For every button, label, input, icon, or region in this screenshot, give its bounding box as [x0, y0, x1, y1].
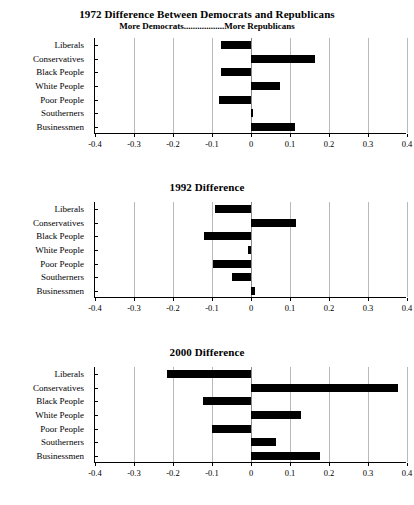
- x-tick--0.2: [173, 134, 174, 137]
- y-tick-1972-0: [95, 45, 98, 46]
- category-label-1972-businessmen: Businessmen: [36, 122, 84, 132]
- gridline--0.1: [212, 367, 213, 462]
- plot-area-2000: LiberalsConservativesBlack PeopleWhite P…: [0, 367, 414, 487]
- x-tick-0: [251, 298, 252, 301]
- gridline-0.4: [407, 367, 408, 462]
- x-axis-label-1972-4: 0: [249, 139, 253, 149]
- bar-1992-businessmen: [251, 287, 255, 295]
- y-tick-1972-1: [95, 59, 98, 60]
- bar-2000-conservatives: [251, 384, 398, 392]
- bar-2000-black-people: [203, 397, 251, 405]
- x-axis-label-1992-0: -0.4: [88, 303, 101, 313]
- x-tick--0.4: [95, 298, 96, 301]
- y-tick-1992-4: [95, 264, 98, 265]
- category-label-1972-white-people: White People: [35, 81, 84, 91]
- x-tick-0.1: [290, 463, 291, 466]
- gridline-0.4: [407, 38, 408, 133]
- x-axis-label-1972-2: -0.2: [166, 139, 179, 149]
- category-label-2000-businessmen: Businessmen: [36, 451, 84, 461]
- x-tick-0: [251, 134, 252, 137]
- category-label-1992-businessmen: Businessmen: [36, 286, 84, 296]
- gridline-0.3: [368, 367, 369, 462]
- gridline--0.3: [134, 202, 135, 297]
- y-tick-1972-4: [95, 100, 98, 101]
- category-label-1992-liberals: Liberals: [55, 204, 85, 214]
- chart-title-2000: 2000 Difference: [0, 340, 414, 359]
- x-axis-label-2000-3: -0.1: [205, 468, 218, 478]
- category-label-2000-southerners: Southerners: [41, 437, 84, 447]
- x-tick--0.1: [212, 463, 213, 466]
- bar-1972-black-people: [221, 68, 251, 76]
- category-label-1972-poor-people: Poor People: [40, 95, 84, 105]
- y-tick-1972-6: [95, 127, 98, 128]
- axes-1972: -0.4-0.3-0.2-0.100.10.20.30.4: [94, 38, 406, 134]
- gridline-0.2: [329, 367, 330, 462]
- x-axis-label-1972-6: 0.2: [324, 139, 335, 149]
- x-axis-label-1992-2: -0.2: [166, 303, 179, 313]
- y-tick-2000-1: [95, 388, 98, 389]
- x-axis-label-1972-7: 0.3: [363, 139, 374, 149]
- x-tick-0.3: [368, 298, 369, 301]
- y-tick-1972-3: [95, 86, 98, 87]
- y-tick-1992-6: [95, 291, 98, 292]
- chart-panel-1972: 1972 Difference Between Democrats and Re…: [0, 0, 414, 175]
- chart-panel-1992: 1992 Difference LiberalsConservativesBla…: [0, 175, 414, 340]
- x-axis-label-1972-8: 0.4: [402, 139, 413, 149]
- gridline-0.3: [368, 38, 369, 133]
- x-tick--0.4: [95, 134, 96, 137]
- y-tick-2000-4: [95, 429, 98, 430]
- figure-page: 1972 Difference Between Democrats and Re…: [0, 0, 414, 505]
- x-tick--0.1: [212, 134, 213, 137]
- y-tick-1992-0: [95, 209, 98, 210]
- x-tick--0.2: [173, 298, 174, 301]
- x-axis-label-2000-5: 0.1: [285, 468, 296, 478]
- gridline--0.2: [173, 38, 174, 133]
- x-tick-0: [251, 463, 252, 466]
- chart-title-1972: 1972 Difference Between Democrats and Re…: [0, 0, 414, 21]
- gridline-0.1: [290, 202, 291, 297]
- category-label-2000-black-people: Black People: [36, 396, 84, 406]
- x-tick--0.3: [134, 463, 135, 466]
- axes-2000: -0.4-0.3-0.2-0.100.10.20.30.4: [94, 367, 406, 463]
- x-axis-label-1972-0: -0.4: [88, 139, 101, 149]
- x-axis-label-2000-0: -0.4: [88, 468, 101, 478]
- category-label-1972-conservatives: Conservatives: [33, 54, 84, 64]
- category-label-1992-conservatives: Conservatives: [33, 218, 84, 228]
- x-axis-label-2000-1: -0.3: [127, 468, 140, 478]
- gridline--0.3: [134, 367, 135, 462]
- bar-1992-southerners: [232, 273, 252, 281]
- y-tick-2000-6: [95, 456, 98, 457]
- gridline-0.2: [329, 202, 330, 297]
- bar-1992-white-people: [248, 246, 251, 254]
- plot-area-1992: LiberalsConservativesBlack PeopleWhite P…: [0, 202, 414, 322]
- category-label-1992-black-people: Black People: [36, 231, 84, 241]
- x-tick-0.4: [407, 298, 408, 301]
- gridline--0.3: [134, 38, 135, 133]
- x-axis-label-1972-5: 0.1: [285, 139, 296, 149]
- bar-1972-white-people: [251, 82, 280, 90]
- y-tick-2000-2: [95, 401, 98, 402]
- bar-2000-white-people: [251, 411, 301, 419]
- x-axis-label-2000-7: 0.3: [363, 468, 374, 478]
- bar-1992-black-people: [204, 232, 251, 240]
- y-tick-1972-5: [95, 113, 98, 114]
- y-tick-2000-5: [95, 442, 98, 443]
- gridline-0.3: [368, 202, 369, 297]
- gridline-0.1: [290, 38, 291, 133]
- category-label-2000-white-people: White People: [35, 410, 84, 420]
- x-axis-label-2000-2: -0.2: [166, 468, 179, 478]
- bar-2000-liberals: [167, 370, 251, 378]
- category-label-1972-black-people: Black People: [36, 67, 84, 77]
- category-label-2000-poor-people: Poor People: [40, 424, 84, 434]
- x-axis-label-2000-8: 0.4: [402, 468, 413, 478]
- gridline--0.2: [173, 367, 174, 462]
- y-tick-1972-2: [95, 72, 98, 73]
- gridline--0.2: [173, 202, 174, 297]
- x-axis-label-1992-4: 0: [249, 303, 253, 313]
- plot-area-1972: LiberalsConservativesBlack PeopleWhite P…: [0, 38, 414, 158]
- x-axis-label-2000-6: 0.2: [324, 468, 335, 478]
- y-tick-1992-5: [95, 277, 98, 278]
- y-tick-2000-0: [95, 374, 98, 375]
- gridline-0.4: [407, 202, 408, 297]
- chart-panel-2000: 2000 Difference LiberalsConservativesBla…: [0, 340, 414, 505]
